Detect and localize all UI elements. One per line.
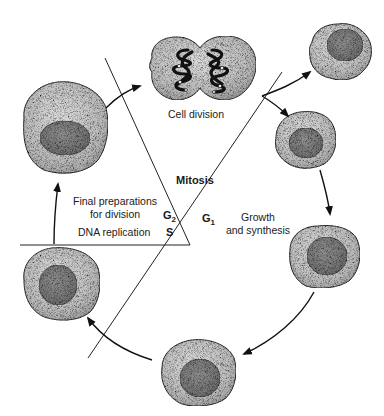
- g2-subscript: 2: [172, 215, 176, 224]
- g1-description-line2: and synthesis: [220, 224, 296, 237]
- arrow-s-to-g2: [54, 184, 58, 244]
- s-phase-cell: [24, 248, 100, 320]
- diagram-canvas: [0, 0, 384, 416]
- arrow-division-to-daughter-top: [262, 72, 310, 96]
- phase-s-label: S: [166, 226, 173, 238]
- g1-cell-right-nucleus: [307, 237, 347, 275]
- g2-description-line2: for division: [70, 208, 160, 221]
- g2-letter: G: [163, 209, 172, 221]
- g1-description: Growth and synthesis: [220, 211, 296, 237]
- daughter-cell-top-nucleus: [327, 29, 363, 61]
- dividing-cell-body: [150, 36, 256, 100]
- s-phase-cell-nucleus: [39, 265, 77, 305]
- cell-cycle-diagram: Cell division Mitosis Final preparations…: [0, 0, 384, 416]
- daughter-cell-right: [275, 112, 335, 169]
- g1-cell-bottom-nucleus: [180, 359, 220, 397]
- phase-mitosis-label: Mitosis: [176, 174, 214, 186]
- g2-description: Final preparations for division: [70, 195, 160, 221]
- s-description: DNA replication: [78, 226, 150, 239]
- arrow-division-to-daughter-right: [262, 96, 288, 116]
- phase-g2-label: G2: [163, 209, 176, 224]
- g1-description-line1: Growth: [220, 211, 296, 224]
- dividing-cell: [150, 36, 256, 100]
- g1-letter: G: [202, 212, 211, 224]
- cell-division-label: Cell division: [168, 108, 224, 121]
- g2-cell-large-nucleus: [40, 121, 90, 155]
- g2-description-line1: Final preparations: [70, 195, 160, 208]
- daughter-cell-top: [309, 24, 371, 80]
- g1-subscript: 1: [211, 218, 215, 227]
- phase-g1-label: G1: [202, 212, 215, 227]
- g2-cell-large: [24, 82, 108, 173]
- daughter-cell-right-nucleus: [289, 128, 323, 158]
- g1-cell-bottom: [162, 340, 236, 406]
- arrow-g1-to-bottom: [244, 292, 314, 354]
- arrow-daughter-to-g1: [320, 170, 330, 214]
- arrow-bottom-to-s: [88, 318, 152, 360]
- g1-cell-right: [290, 226, 360, 288]
